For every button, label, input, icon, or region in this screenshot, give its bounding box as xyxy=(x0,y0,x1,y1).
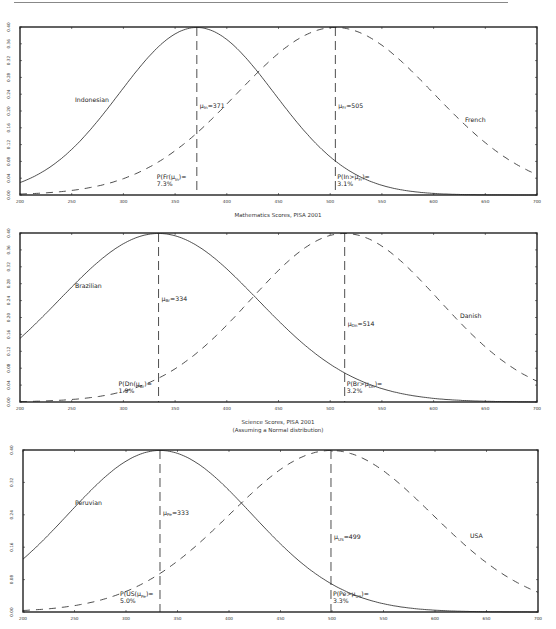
series-label-right: USA xyxy=(470,532,484,539)
x-tick-label: 250 xyxy=(71,616,79,621)
x-tick-label: 200 xyxy=(19,616,27,621)
plot-frame xyxy=(23,450,538,612)
x-tick-label: 350 xyxy=(174,616,182,621)
usa-curve xyxy=(23,451,538,611)
y-tick-label: 0.00 xyxy=(9,607,14,617)
x-tick-label: 650 xyxy=(483,616,491,621)
x-tick-label: 400 xyxy=(225,616,233,621)
y-tick-label: 0.32 xyxy=(9,477,14,487)
mean-label-right: μUS=499 xyxy=(334,533,361,542)
x-tick-label: 500 xyxy=(328,616,336,621)
usa-peru-chart-plot: 2002503003504004505005506006507000.000.0… xyxy=(0,0,556,629)
x-tick-label: 300 xyxy=(122,616,130,621)
prob-value-left: 5.0% xyxy=(120,597,136,604)
x-tick-label: 550 xyxy=(380,616,388,621)
y-tick-label: 0.40 xyxy=(9,445,14,455)
y-tick-label: 0.08 xyxy=(9,575,14,585)
x-tick-label: 600 xyxy=(431,616,439,621)
series-label-left: Peruvian xyxy=(75,499,102,506)
x-tick-label: 700 xyxy=(534,616,542,621)
y-tick-label: 0.24 xyxy=(9,510,14,520)
y-tick-label: 0.16 xyxy=(9,542,14,552)
prob-value-right: 3.3% xyxy=(333,597,349,604)
usa-peru-chart: 2002503003504004505005506006507000.000.0… xyxy=(0,0,556,629)
peruvian-curve xyxy=(23,451,538,613)
mean-label-left: μPe=333 xyxy=(163,509,189,518)
x-tick-label: 450 xyxy=(277,616,285,621)
